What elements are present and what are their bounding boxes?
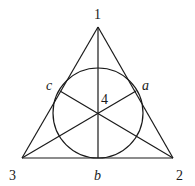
label-4: 4: [101, 92, 108, 107]
side-1-3: [22, 27, 98, 158]
label-b: b: [94, 168, 101, 183]
label-2: 2: [176, 168, 183, 183]
label-a: a: [142, 78, 149, 93]
fano-plane-diagram: 1 2 3 4 a b c: [0, 0, 195, 186]
label-1: 1: [94, 7, 101, 22]
median-3-a: [22, 91, 136, 158]
label-c: c: [46, 78, 53, 93]
median-2-c: [60, 91, 173, 158]
label-3: 3: [9, 168, 16, 183]
